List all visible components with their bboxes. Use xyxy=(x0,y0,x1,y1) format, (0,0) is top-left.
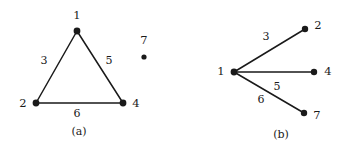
graph-edge[interactable] xyxy=(234,72,304,113)
vertex-label: 7 xyxy=(140,35,147,47)
vertex-label: 1 xyxy=(217,66,224,78)
graph-vertex[interactable] xyxy=(33,100,40,107)
graph-vertex[interactable] xyxy=(302,26,308,32)
graph-vertex[interactable] xyxy=(74,28,81,35)
edge-label: 6 xyxy=(74,108,81,119)
graph-vertex[interactable] xyxy=(120,100,127,107)
vertex-label: 7 xyxy=(313,110,320,122)
vertex-label: 1 xyxy=(73,10,80,22)
graph-panel-b xyxy=(231,26,318,116)
graph-edge[interactable] xyxy=(234,29,305,72)
edge-label: 3 xyxy=(41,55,48,66)
graph-vertex[interactable] xyxy=(311,69,317,75)
edge-label: 3 xyxy=(263,31,270,42)
edge-label: 6 xyxy=(258,94,265,105)
vertex-label: 2 xyxy=(314,20,321,32)
graph-vertex[interactable] xyxy=(231,69,238,76)
graph-vertex[interactable] xyxy=(141,54,146,59)
graph-vertex[interactable] xyxy=(301,110,307,116)
graph-figure: 3561247(a)3561247(b) xyxy=(0,0,350,150)
panel-caption-a: (a) xyxy=(71,126,86,137)
edge-label: 5 xyxy=(106,55,113,66)
graph-canvas xyxy=(0,0,350,150)
graph-panel-a xyxy=(33,28,147,107)
vertex-label: 4 xyxy=(132,98,139,110)
vertex-label: 2 xyxy=(19,98,26,110)
graph-edge[interactable] xyxy=(77,31,123,103)
panel-caption-b: (b) xyxy=(273,129,289,140)
vertex-label: 4 xyxy=(324,66,331,78)
graph-edge[interactable] xyxy=(36,31,77,103)
edge-label: 5 xyxy=(274,81,281,92)
